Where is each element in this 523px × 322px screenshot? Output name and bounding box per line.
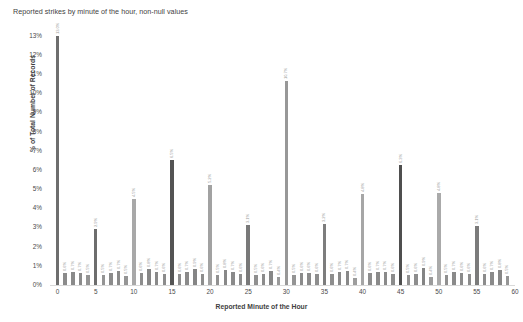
bar[interactable]: 0.6% [163, 274, 167, 286]
y-axis-tick-label: 0% [18, 281, 42, 288]
bar[interactable]: 0.6% [368, 273, 372, 285]
bar[interactable]: 0.7% [269, 271, 273, 285]
bar-value-label: 0.5% [504, 265, 509, 274]
bar[interactable]: 0.5% [124, 276, 128, 285]
bar[interactable]: 0.5% [292, 275, 296, 285]
bar[interactable]: 0.6% [414, 274, 418, 285]
bar[interactable]: 0.7% [384, 272, 388, 285]
bar-value-label: 0.7% [153, 261, 158, 270]
bar-value-label: 0.6% [412, 263, 417, 272]
x-axis-tick-label: 30 [274, 288, 298, 295]
bar-value-label: 0.7% [77, 262, 82, 271]
bar[interactable]: 5.2% [208, 185, 212, 285]
bar[interactable]: 0.8% [224, 270, 228, 285]
bar[interactable]: 0.6% [239, 274, 243, 286]
bar[interactable]: 0.4% [429, 277, 433, 285]
bar-value-label: 13.0% [54, 23, 59, 34]
bar[interactable]: 0.6% [330, 274, 334, 285]
bar[interactable]: 3.1% [246, 225, 250, 285]
bar[interactable]: 0.7% [490, 272, 494, 285]
bar-value-label: 4.5% [130, 189, 135, 198]
bar-value-label: 0.5% [85, 264, 90, 273]
bar[interactable]: 0.9% [422, 268, 426, 285]
bar[interactable]: 0.6% [391, 274, 395, 286]
bar[interactable]: 3.2% [323, 224, 327, 285]
plot-area: 13.0%0.6%0.7%0.7%0.5%2.9%0.5%0.7%0.7%0.5… [50, 28, 515, 285]
bar[interactable]: 0.7% [376, 272, 380, 285]
bar-value-label: 0.5% [405, 264, 410, 273]
x-axis-tick-label: 5 [84, 288, 108, 295]
bar-value-label: 0.6% [260, 263, 265, 272]
bar-value-label: 6.3% [397, 154, 402, 163]
bar[interactable]: 4.5% [132, 199, 136, 285]
bar[interactable]: 3.1% [475, 226, 479, 285]
bar[interactable]: 0.5% [216, 275, 220, 285]
bar[interactable]: 0.7% [79, 273, 83, 285]
bar[interactable]: 0.6% [178, 274, 182, 285]
bar-value-label: 0.4% [352, 267, 357, 276]
bar[interactable]: 13.0% [56, 36, 60, 285]
bar[interactable]: 0.5% [506, 276, 510, 285]
bar[interactable]: 0.6% [307, 273, 311, 285]
bar-value-label: 0.6% [329, 263, 334, 272]
bar[interactable]: 0.5% [86, 275, 90, 285]
bar[interactable]: 0.8% [498, 270, 502, 285]
bar[interactable]: 0.6% [262, 274, 266, 286]
bar[interactable]: 0.7% [71, 272, 75, 285]
bar[interactable]: 0.6% [300, 273, 304, 285]
bar[interactable]: 0.8% [147, 269, 151, 285]
x-axis-tick-label: 50 [427, 288, 451, 295]
bar[interactable]: 0.7% [155, 272, 159, 285]
bar-value-label: 0.6% [161, 263, 166, 272]
bar[interactable]: 6.5% [170, 160, 174, 285]
bar[interactable]: 0.7% [231, 272, 235, 285]
bar[interactable]: 0.7% [117, 271, 121, 285]
x-axis-tick-label: 15 [160, 288, 184, 295]
y-axis-tick-label: 1% [18, 262, 42, 269]
x-axis-tick-label: 20 [198, 288, 222, 295]
bar-value-label: 0.6% [313, 263, 318, 272]
bar[interactable]: 0.9% [193, 269, 197, 285]
bar[interactable]: 0.7% [185, 272, 189, 285]
bar[interactable]: 0.4% [277, 277, 281, 285]
bar[interactable]: 0.5% [102, 275, 106, 285]
bar[interactable]: 10.7% [285, 81, 289, 285]
bar[interactable]: 4.8% [361, 194, 365, 285]
bar-value-label: 0.6% [176, 263, 181, 272]
y-axis-tick-label: 12% [18, 51, 42, 58]
y-axis-tick-label: 3% [18, 223, 42, 230]
bar[interactable]: 0.5% [254, 275, 258, 285]
bar[interactable]: 6.3% [399, 165, 403, 285]
bar[interactable]: 0.7% [109, 273, 113, 285]
bar[interactable]: 2.9% [94, 229, 98, 285]
x-axis-tick-label: 35 [312, 288, 336, 295]
bar-value-label: 0.8% [146, 258, 151, 267]
bar[interactable]: 0.7% [452, 272, 456, 285]
bar-value-label: 10.7% [283, 67, 288, 78]
bar-value-label: 0.6% [367, 262, 372, 271]
bar[interactable]: 0.6% [201, 274, 205, 285]
bar-value-label: 4.8% [359, 183, 364, 192]
bar[interactable]: 0.4% [353, 278, 357, 285]
bar[interactable]: 0.6% [483, 274, 487, 286]
bar-value-label: 0.5% [252, 264, 257, 273]
bar-chart: Reported strikes by minute of the hour, … [0, 0, 523, 322]
bar[interactable]: 0.7% [338, 272, 342, 285]
bar[interactable]: 0.6% [140, 273, 144, 285]
bar-value-label: 0.7% [230, 261, 235, 270]
bar[interactable]: 0.5% [445, 275, 449, 285]
bar[interactable]: 4.8% [437, 193, 441, 285]
bar[interactable]: 0.7% [346, 271, 350, 285]
bar[interactable]: 0.6% [315, 274, 319, 285]
y-axis-tick-label: 7% [18, 147, 42, 154]
y-axis-tick-label: 8% [18, 128, 42, 135]
bar-value-label: 0.6% [458, 262, 463, 271]
bar[interactable]: 0.6% [460, 273, 464, 285]
bar[interactable]: 0.5% [407, 275, 411, 285]
y-axis-tick-label: 5% [18, 185, 42, 192]
x-axis-tick-label: 55 [465, 288, 489, 295]
bar[interactable]: 0.6% [468, 274, 472, 285]
x-axis-tick-label: 0 [46, 288, 70, 295]
bar[interactable]: 0.6% [63, 273, 67, 285]
bar-value-label: 0.6% [306, 262, 311, 271]
